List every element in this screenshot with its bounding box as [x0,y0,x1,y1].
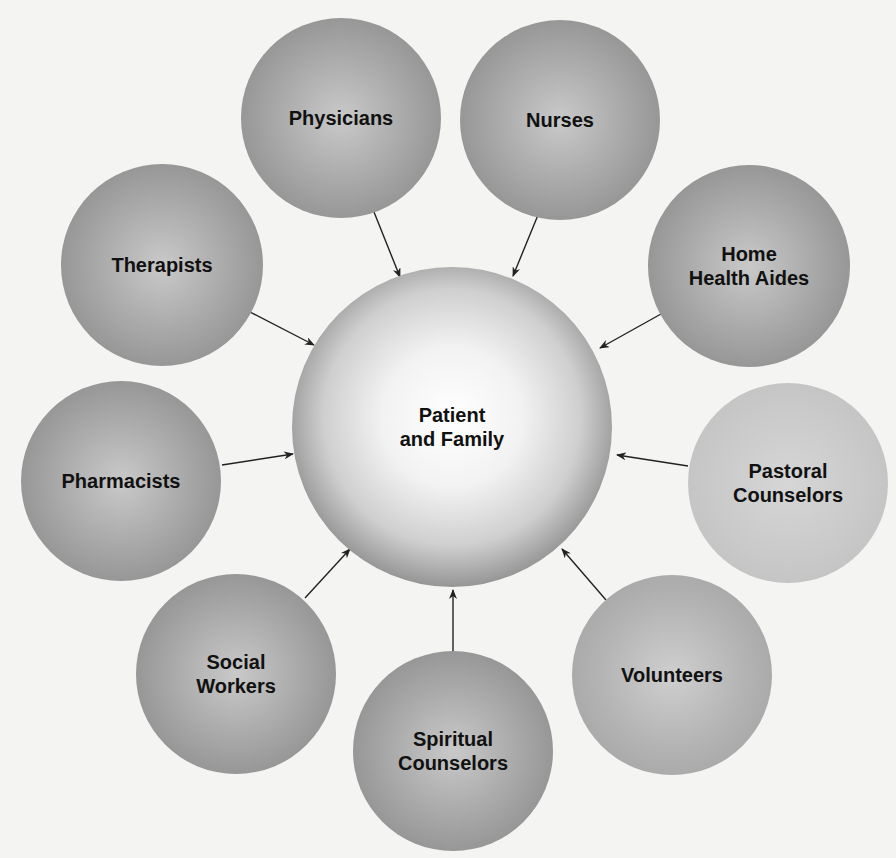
pastoral-counselors-label: Pastoral Counselors [733,459,843,507]
pastoral-counselors-node: Pastoral Counselors [688,383,888,583]
patient-and-family-node: Patient and Family [292,267,612,587]
volunteers-label: Volunteers [621,663,723,687]
nurses-label: Nurses [526,108,594,132]
home-health-aides-node: Home Health Aides [648,165,850,367]
physicians-label: Physicians [289,106,394,130]
arrow-nurses-to-center [513,215,538,276]
therapists-label: Therapists [111,253,212,277]
patient-and-family-label: Patient and Family [400,403,504,451]
arrow-volunteers-to-center [562,549,606,600]
arrow-home-health-aides-to-center [600,314,661,348]
social-workers-node: Social Workers [136,574,336,774]
nurses-node: Nurses [460,20,660,220]
arrow-therapists-to-center [250,312,314,345]
spiritual-counselors-node: Spiritual Counselors [353,651,553,851]
arrow-pharmacists-to-center [222,454,293,465]
social-workers-label: Social Workers [196,650,276,698]
spiritual-counselors-label: Spiritual Counselors [398,727,508,775]
arrow-social-workers-to-center [305,549,350,598]
home-health-aides-label: Home Health Aides [689,242,809,290]
therapists-node: Therapists [61,164,263,366]
pharmacists-node: Pharmacists [21,381,221,581]
arrow-physicians-to-center [374,212,400,277]
physicians-node: Physicians [241,18,441,218]
care-team-diagram: Patient and Family Physicians Nurses The… [0,0,896,858]
pharmacists-label: Pharmacists [62,469,181,493]
volunteers-node: Volunteers [572,575,772,775]
arrow-pastoral-counselors-to-center [617,455,688,466]
